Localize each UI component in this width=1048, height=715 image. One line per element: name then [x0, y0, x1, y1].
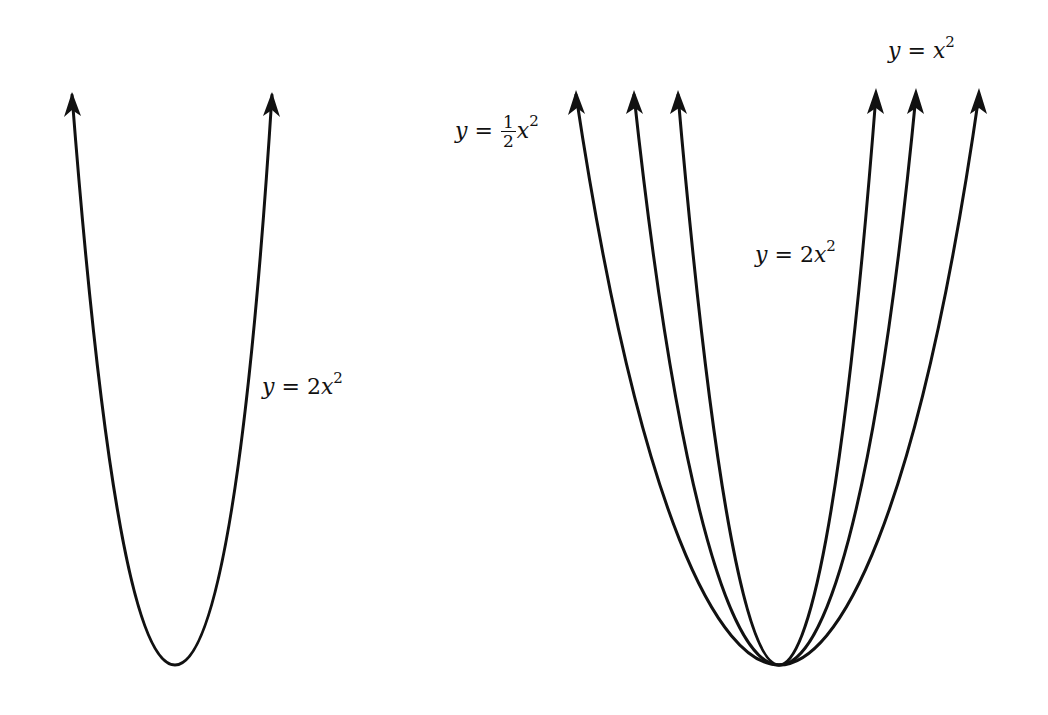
label-eq: = — [281, 374, 299, 399]
label-right-half-x2: y = 1 2 x2 — [455, 113, 539, 150]
label-x: x — [933, 38, 945, 63]
label-fraction: 1 2 — [501, 113, 516, 150]
curve-right-half-x2 — [576, 95, 979, 665]
label-x: x — [814, 242, 826, 267]
label-exp: 2 — [826, 237, 836, 255]
label-exp: 2 — [333, 369, 343, 387]
arrow-up-icon — [568, 90, 585, 115]
label-coef: 2 — [800, 242, 814, 267]
label-x: x — [517, 118, 529, 143]
curve-right-x2 — [634, 95, 916, 665]
fraction-denominator: 2 — [503, 132, 514, 150]
label-right-2x2: y = 2x2 — [755, 240, 836, 267]
label-exp: 2 — [529, 112, 539, 130]
fraction-numerator: 1 — [501, 113, 516, 132]
label-eq: = — [774, 242, 792, 267]
label-eq: = — [907, 38, 925, 63]
label-coef: 2 — [307, 374, 321, 399]
label-exp: 2 — [945, 33, 955, 51]
parabola-diagram — [0, 0, 1048, 715]
label-var: y — [755, 242, 767, 267]
curve-left-2x2 — [72, 95, 272, 665]
label-x: x — [321, 374, 333, 399]
label-var: y — [455, 118, 467, 143]
label-left-2x2: y = 2x2 — [262, 372, 343, 399]
curve-right-2x2 — [678, 95, 876, 665]
label-eq: = — [474, 118, 492, 143]
label-right-x2: y = x2 — [888, 36, 955, 63]
arrow-up-icon — [970, 88, 987, 114]
label-var: y — [262, 374, 274, 399]
label-var: y — [888, 38, 900, 63]
